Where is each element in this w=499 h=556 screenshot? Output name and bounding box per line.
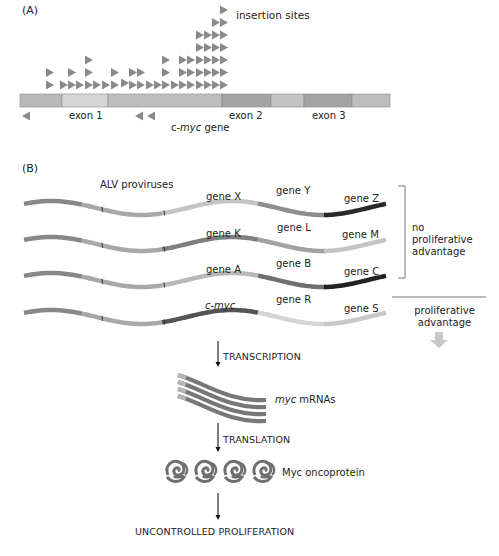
provirus-mark: [102, 316, 103, 321]
insertion-triangle-forward-icon: [220, 18, 228, 27]
chromosome-segment: [24, 273, 82, 277]
insertion-triangle-reverse-icon: [135, 112, 143, 121]
gene-l-label: gene L: [277, 222, 311, 234]
provirus-mark: [164, 246, 165, 251]
insertion-triangle-forward-icon: [220, 68, 228, 77]
myc-mrnas-label: myc mRNAs: [275, 394, 336, 406]
insertion-triangle-forward-icon: [85, 81, 93, 90]
insertion-sites-label: insertion sites: [236, 9, 310, 21]
insertion-triangle-forward-icon: [196, 56, 204, 65]
insertion-triangle-forward-icon: [204, 68, 212, 77]
provirus-mark: [102, 207, 103, 212]
exon-1-label: exon 1: [69, 110, 103, 122]
insertion-triangle-forward-icon: [212, 56, 220, 65]
insertion-triangle-forward-icon: [129, 68, 137, 77]
insertion-triangle-forward-icon: [111, 81, 119, 90]
no-advantage-bracket: [398, 186, 405, 278]
insertion-triangle-forward-icon: [179, 56, 187, 65]
transcription-label: TRANSCRIPTION: [223, 351, 301, 363]
c-myc-label: c-myc: [205, 300, 235, 312]
provirus-mark: [102, 243, 103, 248]
provirus-mark: [164, 282, 165, 287]
chromosome-segment: [24, 310, 82, 314]
gene-r-label: gene R: [276, 294, 311, 306]
insertion-triangle-forward-icon: [179, 81, 187, 90]
gene-bar-segment: [20, 94, 62, 107]
gene-b-label: gene B: [276, 258, 311, 270]
chromosome-segment: [258, 313, 326, 324]
chromosome-segment: [82, 241, 162, 251]
myc-protein-icon: [167, 461, 187, 481]
insertion-triangle-forward-icon: [137, 81, 145, 90]
exon-3-label: exon 3: [312, 110, 346, 122]
mrna-cap: [178, 396, 186, 399]
mrna-cap: [178, 382, 186, 385]
alv-proviruses-label: ALV proviruses: [100, 179, 173, 191]
insertion-triangle-forward-icon: [212, 68, 220, 77]
chromosome-segment: [82, 205, 162, 215]
insertion-triangle-forward-icon: [68, 81, 76, 90]
insertion-triangle-forward-icon: [220, 43, 228, 52]
insertion-triangle-forward-icon: [204, 31, 212, 40]
insertion-triangle-forward-icon: [196, 81, 204, 90]
c-myc-gene-label: c-myc gene: [171, 122, 229, 134]
diagram-canvas: [0, 0, 499, 556]
insertion-triangle-forward-icon: [212, 43, 220, 52]
transcription-arrow-head-icon: [216, 362, 221, 367]
insertion-triangle-forward-icon: [162, 68, 170, 77]
panel-b-label: (B): [22, 163, 38, 175]
chromosome-segment: [258, 240, 326, 251]
insertion-triangle-forward-icon: [220, 6, 228, 15]
gene-y-label: gene Y: [276, 185, 310, 197]
chromosome-segment: [82, 277, 162, 287]
gene-bar-segment: [304, 94, 352, 107]
insertion-triangle-reverse-icon: [147, 112, 155, 121]
myc-protein-icon: [225, 461, 245, 481]
insertion-triangle-forward-icon: [137, 68, 145, 77]
uncontrolled-proliferation-label: UNCONTROLLED PROLIFERATION: [135, 526, 294, 538]
insertion-triangle-forward-icon: [111, 68, 119, 77]
gene-c-label: gene C: [344, 266, 379, 278]
gene-m-label: gene M: [342, 229, 379, 241]
insertion-triangle-forward-icon: [187, 56, 195, 65]
insertion-triangle-forward-icon: [68, 68, 76, 77]
gene-bar-segment: [352, 94, 390, 107]
chromosome-segment: [324, 240, 386, 251]
proliferative-advantage-label: proliferative advantage: [407, 305, 482, 329]
gene-bar-segment: [271, 94, 304, 107]
gene-bar-segment: [222, 94, 271, 107]
insertion-triangle-forward-icon: [129, 81, 137, 90]
insertion-triangle-forward-icon: [162, 81, 170, 90]
myc-protein-icon: [196, 461, 216, 481]
insertion-triangle-forward-icon: [121, 79, 129, 88]
insertion-triangle-forward-icon: [187, 81, 195, 90]
chromosome-segment: [24, 201, 82, 205]
insertion-triangle-forward-icon: [204, 56, 212, 65]
gene-bar-segment: [62, 94, 108, 107]
provirus-mark: [102, 279, 103, 284]
insertion-triangle-forward-icon: [204, 43, 212, 52]
gene-bar-segment: [108, 94, 222, 107]
gene-z-label: gene Z: [344, 193, 379, 205]
insertion-triangle-forward-icon: [196, 43, 204, 52]
insertion-triangle-forward-icon: [220, 31, 228, 40]
insertion-triangle-forward-icon: [46, 81, 54, 90]
myc-protein-icon: [254, 461, 274, 481]
insertion-triangle-forward-icon: [146, 81, 154, 90]
exon-2-label: exon 2: [229, 110, 263, 122]
down-arrow-icon: [430, 332, 448, 348]
chromosome-segment: [258, 276, 326, 287]
insertion-triangle-forward-icon: [204, 81, 212, 90]
insertion-triangle-forward-icon: [76, 81, 84, 90]
myc-oncoprotein-label: Myc oncoprotein: [282, 467, 365, 479]
insertion-triangle-forward-icon: [171, 81, 179, 90]
insertion-triangle-forward-icon: [60, 81, 68, 90]
gene-x-label: gene X: [206, 191, 241, 203]
insertion-triangle-forward-icon: [220, 81, 228, 90]
chromosome-segment: [324, 204, 386, 215]
insertion-triangle-forward-icon: [212, 81, 220, 90]
chromosome-segment: [82, 314, 162, 324]
no-proliferative-advantage-label: no proliferative advantage: [412, 222, 473, 258]
provirus-mark: [164, 319, 165, 324]
insertion-triangle-forward-icon: [46, 68, 54, 77]
